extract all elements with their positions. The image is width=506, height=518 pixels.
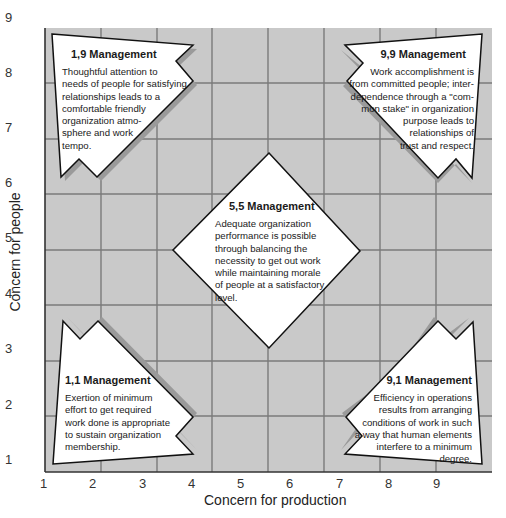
desc-line: Work accomplishment is [330,66,474,78]
desc-line: to sustain organization [65,429,180,441]
desc-line: Thoughtful attention to [62,66,192,78]
desc-line: purpose leads to [330,115,474,127]
desc-line: sphere and work [62,127,192,139]
x-axis-title: Concern for production [204,492,346,508]
desc-line: Adequate organization [215,218,345,230]
style-description: Adequate organization performance is pos… [215,218,345,304]
desc-line: dependence through a "com- [330,91,474,103]
desc-line: relationships of [330,127,474,139]
desc-line: organization atmo- [62,115,192,127]
y-tick-1: 1 [5,452,12,467]
desc-line: conditions of work in such [345,417,472,429]
desc-line: comfortable friendly [62,103,192,115]
desc-line: trust and respect. [330,140,474,152]
desc-line: while maintaining morale [215,267,345,279]
desc-line: necessity to get out work [215,255,345,267]
y-tick-8: 8 [5,65,12,80]
style-description: Thoughtful attention to needs of people … [62,66,192,152]
desc-line: effort to get required [65,404,180,416]
desc-line: mon stake" in organization [330,103,474,115]
x-tick-5: 5 [237,476,244,491]
style-description: Efficiency in operations results from ar… [345,392,472,466]
x-tick-6: 6 [286,476,293,491]
style-title: 9,9 Management [330,48,474,61]
desc-line: tempo. [62,140,192,152]
y-tick-9: 9 [5,10,12,25]
desc-line: results from arranging [345,404,472,416]
desc-line: performance is possible [215,230,345,242]
x-tick-4: 4 [188,476,195,491]
desc-line: relationships leads to a [62,91,192,103]
x-tick-8: 8 [385,476,392,491]
desc-line: membership. [65,441,180,453]
label-9-1-management: 9,1 Management Efficiency in operations … [345,374,472,466]
style-title: 1,9 Management [62,48,192,61]
desc-line: needs of people for satisfying [62,78,192,90]
managerial-grid-diagram: 9 8 7 6 5 4 3 2 1 1 2 3 4 5 6 7 8 9 Conc… [0,0,506,518]
style-title: 1,1 Management [65,374,180,387]
desc-line: degree. [345,453,472,465]
style-title: 9,1 Management [345,374,472,387]
x-tick-9: 9 [433,476,440,491]
desc-line: Exertion of minimum [65,392,180,404]
desc-line: of people at a satisfactory [215,279,345,291]
x-tick-1: 1 [40,476,47,491]
desc-line: through balancing the [215,243,345,255]
style-title: 5,5 Management [215,200,345,213]
label-5-5-management: 5,5 Management Adequate organization per… [215,200,345,304]
label-1-1-management: 1,1 Management Exertion of minimum effor… [65,374,180,453]
desc-line: Efficiency in operations [345,392,472,404]
y-tick-2: 2 [5,397,12,412]
label-9-9-management: 9,9 Management Work accomplishment is fr… [330,48,474,152]
x-tick-2: 2 [89,476,96,491]
desc-line: from committed people; inter- [330,78,474,90]
desc-line: work done is appropriate [65,417,180,429]
y-tick-3: 3 [5,341,12,356]
x-tick-3: 3 [139,476,146,491]
y-tick-7: 7 [5,120,12,135]
x-tick-7: 7 [336,476,343,491]
y-axis-title: Concern for people [7,187,23,317]
desc-line: interfere to a minimum [345,441,472,453]
desc-line: a way that human elements [345,429,472,441]
desc-line: level. [215,292,345,304]
style-description: Work accomplishment is from committed pe… [330,66,474,152]
style-description: Exertion of minimum effort to get requir… [65,392,180,453]
label-1-9-management: 1,9 Management Thoughtful attention to n… [62,48,192,152]
